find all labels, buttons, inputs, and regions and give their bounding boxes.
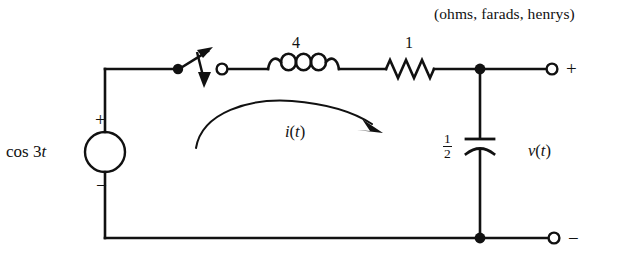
circuit-diagram: (ohms, farads, henrys) 4 1 1 2 cos 3t + … [0,0,644,259]
terminal-plus-sign: + [566,59,577,78]
switch-open-terminal [217,64,228,75]
terminal-minus-sign: − [568,229,579,248]
mesh-current-label: i(t) [285,124,305,141]
output-voltage-close-paren: ) [545,141,551,160]
mesh-current-arrowhead-icon [357,119,383,133]
inductor-coil-2 [296,54,311,70]
source-minus-sign: − [96,176,107,195]
capacitor-value-numerator: 1 [443,132,452,146]
source-plus-sign: + [95,110,106,129]
resistor-value-label: 1 [405,35,413,51]
units-note: (ohms, farads, henrys) [434,6,575,22]
mesh-current-close-paren: ) [300,122,306,141]
terminal-bottom-right[interactable] [549,233,560,244]
inductor-value-label: 4 [292,35,300,51]
output-voltage-label: v(t) [528,143,551,160]
switch-pivot-dot [173,64,183,74]
inductor-coil-3 [311,54,326,70]
inductor-lead-out [326,59,339,69]
resistor-zigzag [386,60,434,78]
voltage-source-circle [85,132,125,172]
mesh-current-arc [196,101,372,148]
capacitor-value-label: 1 2 [443,132,452,161]
node-dot-top [475,64,486,75]
source-label-prefix: cos 3 [6,142,41,161]
inductor-coil-1 [281,54,296,70]
capacitor-value-denominator: 2 [443,146,452,161]
switch-actuation-arrow-icon [197,52,211,88]
node-dot-bottom [475,233,486,244]
inductor-lead-in [268,59,281,69]
source-label: cos 3t [6,143,46,160]
terminal-top-right[interactable] [547,64,558,75]
source-label-variable: t [41,142,46,161]
